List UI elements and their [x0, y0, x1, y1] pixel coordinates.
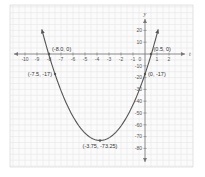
data-point-marker [144, 73, 146, 75]
x-tick-label: 2 [168, 56, 171, 62]
data-point-marker [54, 73, 56, 75]
x-tick-label: -4 [95, 56, 100, 62]
y-tick-label: -20 [135, 74, 142, 80]
point-label: (0, -17) [148, 71, 166, 77]
data-point-marker [99, 139, 101, 141]
point-label: (0.5, 0) [154, 46, 172, 52]
y-tick-label: 10 [136, 39, 142, 45]
y-tick-label: -50 [135, 110, 142, 116]
point-label: (-8.0, 0) [52, 46, 71, 52]
x-tick-label: -5 [83, 56, 88, 62]
point-label: (-3.75, -73.25) [83, 143, 118, 149]
x-tick-label: -7 [59, 56, 64, 62]
x-tick-label: -1 [131, 56, 136, 62]
y-axis-label: y [143, 11, 147, 17]
x-tick-label: -9 [35, 56, 40, 62]
x-tick-label: -6 [71, 56, 76, 62]
y-tick-label: -70 [135, 133, 142, 139]
parabola-chart: ty -10-9-8-7-6-5-4-3-2-10122010-10-20-30… [0, 0, 205, 177]
y-tick-label: -60 [135, 122, 142, 128]
y-tick-label: -10 [135, 63, 142, 69]
point-label: (-7.5, -17) [28, 71, 52, 77]
y-tick-label: -80 [135, 145, 142, 151]
x-tick-label: -3 [107, 56, 112, 62]
x-tick-label: 0 [139, 56, 142, 62]
data-point-marker [48, 53, 50, 55]
x-tick-label: -2 [119, 56, 124, 62]
x-tick-label: 1 [156, 56, 159, 62]
data-point-marker [150, 53, 152, 55]
y-tick-label: 20 [136, 27, 142, 33]
x-tick-label: -10 [21, 56, 28, 62]
